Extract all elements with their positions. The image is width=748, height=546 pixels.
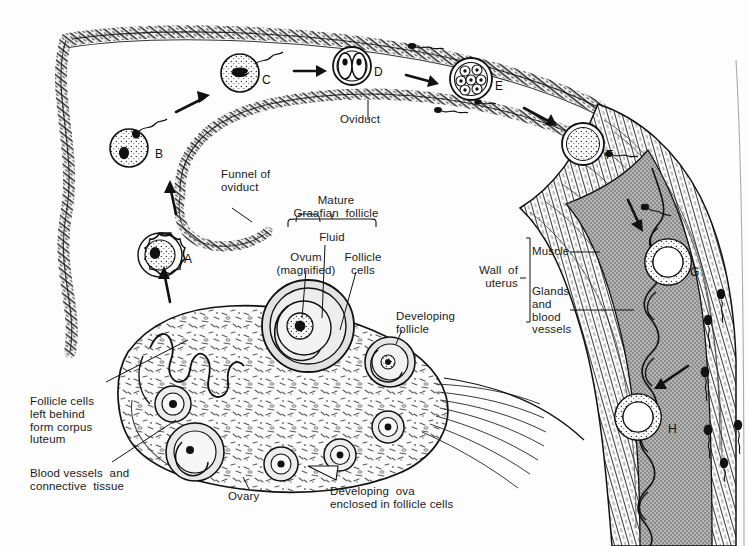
stage-cell-C [221, 52, 283, 92]
label-blood-vessels-connective-tissue: Blood vessels and connective tissue [30, 467, 129, 493]
stage-cell-F [562, 123, 604, 165]
label-follicle-cells: Follicle cells [334, 251, 392, 277]
stage-letter-C: C [262, 74, 271, 86]
stage-cell-G [645, 239, 691, 285]
label-ovary: Ovary [228, 490, 259, 503]
label-fluid: Fluid [307, 231, 357, 244]
label-funnel-of-oviduct: Funnel of oviduct [221, 168, 270, 194]
label-muscle: Muscle [532, 245, 569, 258]
stage-letter-H: H [668, 423, 677, 435]
stage-letter-B: B [155, 148, 163, 160]
mature-graafian-follicle [262, 280, 354, 372]
stage-letter-G: G [690, 266, 699, 278]
ovary [118, 280, 584, 492]
stage-cell-H [615, 394, 661, 440]
stage-letter-E: E [495, 80, 503, 92]
stage-cell-D [333, 47, 371, 85]
label-developing-follicle: Developing follicle [396, 310, 455, 336]
stage-letter-A: A [184, 253, 192, 265]
stage-cell-E [450, 58, 492, 100]
label-wall-of-uterus: Wall of uterus [446, 264, 518, 290]
stage-letter-F: F [606, 149, 613, 161]
label-oviduct: Oviduct [340, 113, 380, 126]
stage-letter-D: D [374, 66, 383, 78]
figure-canvas: Oviduct Funnel of oviduct Mature Graafia… [0, 0, 748, 546]
stage-cell-A [138, 233, 185, 277]
developing-follicle [365, 337, 415, 387]
label-glands-and-blood-vessels: Glands and blood vessels [532, 285, 571, 336]
label-mature-graafian-follicle: Mature Graafian follicle [288, 194, 384, 220]
label-developing-ova: Developing ova enclosed in follicle cell… [330, 485, 453, 511]
label-corpus-luteum: Follicle cells left behind form corpus l… [30, 395, 94, 446]
